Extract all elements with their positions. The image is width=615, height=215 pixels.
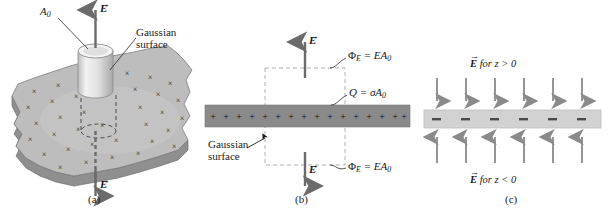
label-field-top-a: → E — [100, 2, 107, 14]
caption-b: (b) — [295, 193, 308, 205]
label-flux-top: ΦE = EA0 — [348, 49, 391, 64]
label-gaussian-surface-a: Gaussian surface — [136, 26, 176, 51]
vector-arrow-glyph: → — [310, 31, 319, 41]
label-flux-bottom: ΦE = EA0 — [348, 160, 391, 175]
vector-arrow-glyph: → — [101, 0, 110, 9]
figure-electric-field-charged-sheet: ×× ×× ×× ×× ×× ×× ×× ×× ×× ×× ×× ×× ×× ×… — [0, 0, 615, 215]
caption-c: (c) — [505, 193, 517, 205]
label-field-above-c: → E for z > 0 — [470, 58, 516, 70]
vector-arrow-glyph: → — [470, 51, 479, 61]
panel-b: +++ +++ +++ +++ +++ + ΦE = EA0 Q = σA0 — [205, 0, 410, 215]
label-area-a0: A0 — [40, 5, 51, 20]
vector-arrow-glyph: → — [310, 160, 319, 170]
label-field-bottom-b: → E — [309, 163, 316, 175]
caption-a: (a) — [88, 193, 100, 205]
panel-a-labels: A0 Gaussian surface → E → E (a) — [0, 0, 205, 215]
vector-arrow-glyph: → — [470, 167, 479, 177]
panel-c-labels: → E for z > 0 → E for z < 0 (c) — [410, 0, 615, 215]
label-field-bottom-a: → E — [100, 178, 107, 190]
label-charge-q: Q = σA0 — [349, 86, 386, 101]
panel-a: ×× ×× ×× ×× ×× ×× ×× ×× ×× ×× ×× ×× ×× ×… — [0, 0, 205, 215]
label-field-top-b: → E — [309, 34, 316, 46]
label-gaussian-surface-b: Gaussian surface — [208, 138, 248, 163]
label-field-below-c: → E for z < 0 — [470, 174, 516, 186]
vector-arrow-glyph: → — [101, 175, 110, 185]
panel-b-labels: ΦE = EA0 Q = σA0 ΦE = EA0 Gaussian surfa… — [205, 0, 410, 215]
panel-c: → E for z > 0 → E for z < 0 (c) — [410, 0, 615, 215]
